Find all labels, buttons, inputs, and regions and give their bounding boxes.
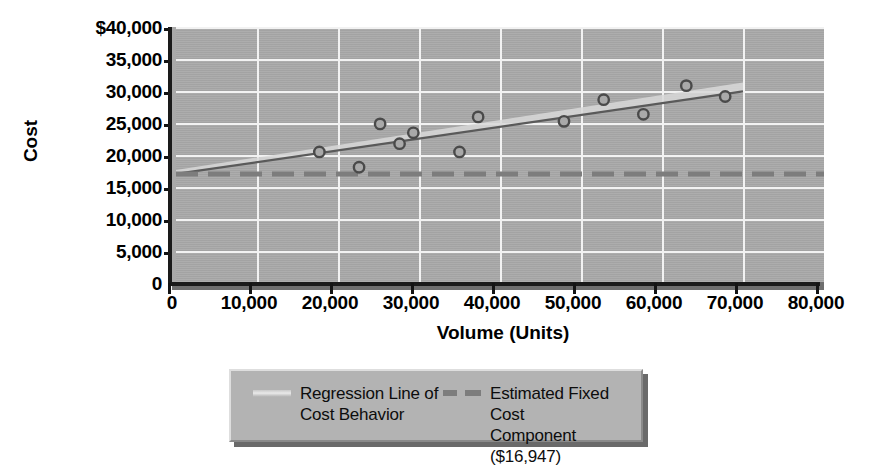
legend-label: Estimated Fixed Cost Component ($16,947) (490, 383, 641, 467)
y-tick-label: 35,000 (106, 50, 162, 69)
x-tick-label: 40,000 (464, 292, 520, 314)
x-tick-label: 10,000 (221, 292, 277, 314)
solid-line-swatch-icon (253, 390, 291, 397)
y-tick-label: 10,000 (106, 210, 162, 229)
y-tick-label: 20,000 (106, 146, 162, 165)
x-tick-label: 30,000 (383, 292, 439, 314)
x-axis-tick-labels: 0 10,000 20,000 30,000 40,000 50,000 60,… (0, 292, 890, 318)
y-tick-label: 30,000 (106, 82, 162, 101)
y-tick-label: $40,000 (95, 18, 162, 37)
y-tick-label: 5,000 (116, 242, 162, 261)
plot-frame (168, 27, 820, 286)
x-tick-label: 80,000 (788, 292, 844, 314)
x-tick-label: 60,000 (626, 292, 682, 314)
chart-data-overlay (176, 27, 824, 282)
plot-inner (176, 27, 824, 282)
x-tick-label: 0 (167, 292, 177, 314)
regression-line-series (176, 82, 743, 174)
x-axis-title-text: Volume (Units) (437, 322, 570, 343)
x-tick-label: 20,000 (302, 292, 358, 314)
legend-item-fixed-cost: Estimated Fixed Cost Component ($16,947) (443, 383, 641, 467)
y-tick-label: 15,000 (106, 178, 162, 197)
legend-label: Regression Line of Cost Behavior (300, 383, 438, 425)
legend-item-regression-line: Regression Line of Cost Behavior (253, 383, 438, 425)
x-tick-label: 70,000 (707, 292, 763, 314)
chart-legend: Regression Line of Cost Behavior Estimat… (229, 369, 643, 442)
y-axis-title: Cost (20, 120, 42, 162)
plot-area (168, 27, 820, 286)
x-tick-label: 50,000 (545, 292, 601, 314)
y-tick-label: 0 (152, 274, 162, 293)
y-tick-label: 25,000 (106, 114, 162, 133)
x-axis-title: Volume (Units) (0, 322, 890, 344)
chart-figure: Cost $40,000 35,000 30,000 25,000 20,000… (0, 0, 890, 474)
dashed-line-swatch-icon (443, 390, 481, 396)
